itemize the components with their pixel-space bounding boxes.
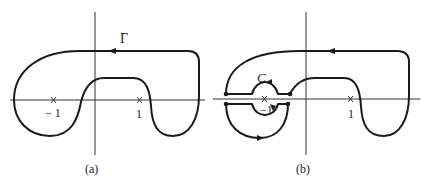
panel-b-endpoint-dot-icon — [224, 92, 229, 97]
panel-b-endpoint-dot-icon — [288, 92, 293, 97]
panel-b-small-circle-arrow-icon — [266, 79, 272, 85]
panel-b-top-direction-arrow-icon — [327, 48, 335, 54]
panel-a — [10, 12, 205, 155]
panel-a-gamma-label: Γ — [120, 31, 128, 46]
panel-b-endpoint-dot-icon — [224, 102, 229, 107]
panel-b-endpoint-dot-icon — [286, 102, 291, 107]
panel-b-lower-arc — [226, 104, 288, 138]
panel-b-minus-one-label: −1 — [260, 103, 273, 117]
panel-b-lower-keyhole-line — [226, 104, 288, 115]
panel-b-one-label: 1 — [348, 107, 354, 121]
panel-b — [213, 12, 420, 155]
contour-figure: Γ − 1 1 (a) C −1 1 (b) — [0, 0, 421, 186]
panel-b-outer-contour — [226, 51, 409, 136]
panel-b-caption: (b) — [296, 162, 310, 176]
panel-b-c-label: C — [257, 70, 266, 85]
panel-a-caption: (a) — [85, 162, 98, 176]
panel-a-minus-one-label: − 1 — [45, 106, 61, 120]
panel-a-contour-gamma — [14, 51, 199, 136]
panel-a-one-label: 1 — [136, 107, 142, 121]
panel-b-lower-arc-arrow-icon — [257, 135, 264, 141]
panel-a-direction-arrow-icon — [108, 48, 116, 54]
